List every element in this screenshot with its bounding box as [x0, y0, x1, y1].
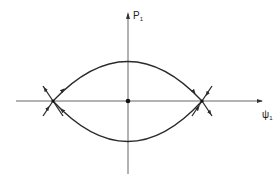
axis-arrow-icon	[126, 12, 130, 19]
right-saddle-point	[200, 99, 203, 102]
horizontal-axis-label: ψ1	[262, 109, 273, 121]
lower-separatrix	[53, 101, 202, 142]
center-point	[126, 99, 131, 104]
upper-separatrix	[53, 62, 202, 102]
left-saddle-point	[51, 99, 54, 102]
phase-portrait: P1 ψ1	[0, 0, 277, 183]
vertical-axis	[126, 12, 130, 174]
vertical-axis-label: P1	[133, 10, 144, 22]
axis-arrow-icon	[257, 99, 263, 103]
